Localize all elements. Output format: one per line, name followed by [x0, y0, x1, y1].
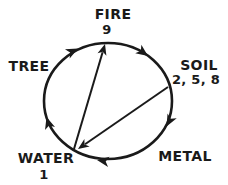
node-label-soil: SOIL	[180, 58, 218, 72]
arrow-line-soil-to-water	[85, 87, 168, 144]
cycle-circle	[44, 43, 172, 159]
node-label-tree: TREE	[8, 59, 49, 73]
node-label-water: WATER	[18, 151, 74, 165]
arrowhead-metal-to-water-icon	[96, 155, 109, 167]
arrowhead-fire-to-soil-icon	[135, 45, 151, 60]
node-numbers-soil: 2, 5, 8	[172, 73, 220, 86]
node-label-fire: FIRE	[95, 7, 132, 21]
arrowhead-soil-to-water-icon	[75, 139, 89, 153]
node-numbers-water: 1	[39, 168, 48, 181]
node-numbers-fire: 9	[102, 23, 111, 36]
five-element-cycle-diagram: FIRE 9 SOIL 2, 5, 8 METAL WATER 1 TREE	[0, 0, 228, 185]
arrowhead-water-to-tree-icon	[42, 115, 55, 130]
node-label-metal: METAL	[158, 149, 212, 163]
